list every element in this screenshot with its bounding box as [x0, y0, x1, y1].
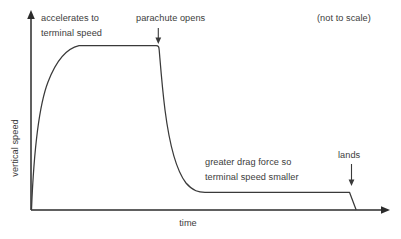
annotation-greater-drag: greater drag force so terminal speed sma…	[205, 157, 299, 182]
annotation-lands: lands	[338, 150, 361, 186]
annotation-accelerates-line1: accelerates to	[41, 13, 99, 23]
not-to-scale-note: (not to scale)	[317, 13, 371, 23]
x-axis	[31, 206, 390, 214]
annotation-greater-drag-line2: terminal speed smaller	[205, 172, 299, 182]
parachute-pointer-arrow	[155, 28, 161, 44]
graph-canvas: accelerates to terminal speed parachute …	[0, 0, 401, 239]
annotation-accelerates: accelerates to terminal speed	[41, 13, 102, 38]
annotation-lands-label: lands	[338, 150, 361, 160]
annotation-accelerates-line2: terminal speed	[41, 28, 102, 38]
annotation-parachute-opens-label: parachute opens	[136, 13, 206, 23]
speed-time-graph: accelerates to terminal speed parachute …	[0, 0, 401, 239]
annotation-greater-drag-line1: greater drag force so	[205, 157, 291, 167]
annotation-parachute-opens: parachute opens	[136, 13, 206, 44]
lands-pointer-arrow	[349, 164, 355, 186]
y-axis	[27, 10, 35, 210]
x-axis-label: time	[179, 218, 197, 228]
y-axis-label: vertical speed	[10, 119, 20, 176]
speed-time-curve	[32, 46, 357, 210]
